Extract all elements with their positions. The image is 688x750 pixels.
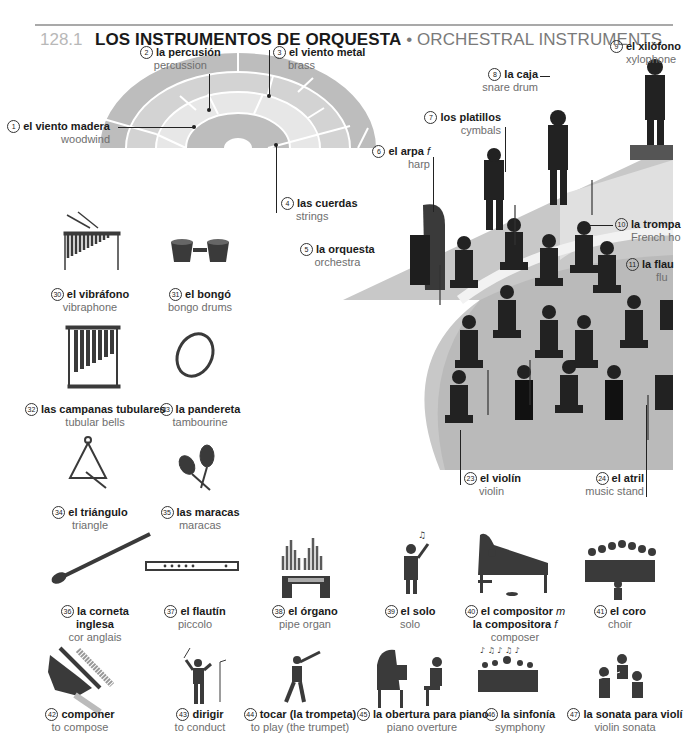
label-maracas: 35las maracas maracas <box>150 506 250 532</box>
leader-line <box>505 127 506 172</box>
label-snare-drum: 8la caja snare drum <box>460 68 538 94</box>
leader-dot <box>267 94 271 98</box>
section-number: 128.1 <box>40 30 83 50</box>
label-composer: 40el compositor m la compositora f compo… <box>460 605 570 644</box>
violin-sonata-icon <box>595 654 643 698</box>
label-play-trumpet: 44tocar (la trompeta) to play (the trump… <box>240 708 360 734</box>
header-rule <box>35 24 673 26</box>
compose-icon <box>48 648 112 712</box>
label-xylophone: 9el xilófono xylophone <box>610 40 681 66</box>
label-percussion: 2la percusión percussion <box>140 46 221 72</box>
conduct-icon <box>184 648 226 704</box>
tambourine-icon <box>170 328 219 382</box>
pipe-organ-icon <box>282 538 330 598</box>
leader-line <box>460 430 461 485</box>
solo-icon: ♫ <box>404 530 428 594</box>
label-triangle: 34el triángulo triangle <box>40 506 140 532</box>
label-tambourine: 33la pandereta tambourine <box>150 403 250 429</box>
trumpet-player-icon <box>286 652 320 702</box>
label-solo: 39el solo solo <box>360 605 460 631</box>
triangle-icon <box>70 437 106 488</box>
label-piano-overture: 45la obertura para piano piano overture <box>357 708 487 734</box>
label-harp: 6el arpa f harp <box>350 145 430 171</box>
label-compose: 42componer to compose <box>25 708 135 734</box>
label-bongo: 31el bongó bongo drums <box>150 288 250 314</box>
label-vibraphone: 30el vibráfono vibraphone <box>40 288 140 314</box>
leader-line <box>433 157 434 212</box>
label-french-horn: 10la trompa French ho <box>615 218 681 244</box>
label-strings: 4las cuerdas strings <box>281 197 358 223</box>
cor-anglais-icon <box>50 534 150 586</box>
label-symphony: 46la sinfonía symphony <box>470 708 570 734</box>
leader-dot <box>274 143 278 147</box>
label-flute: 11la flau flu <box>626 258 674 284</box>
leader-line <box>585 225 613 226</box>
label-orchestra: 5la orquesta orchestra <box>300 243 375 269</box>
tubular-bells-icon <box>66 326 120 388</box>
title-separator: • <box>401 30 417 49</box>
svg-text:♪ ♫ ♪ ♫ ♪: ♪ ♫ ♪ ♫ ♪ <box>480 646 520 655</box>
vibraphone-icon <box>64 212 120 270</box>
label-pipe-organ: 38el órgano pipe organ <box>255 605 355 631</box>
label-woodwind: 1el viento madera woodwind <box>0 120 110 146</box>
label-piccolo: 37el flautín piccolo <box>145 605 245 631</box>
leader-dot <box>192 125 196 129</box>
piccolo-icon <box>146 562 238 570</box>
leader-line <box>276 145 277 213</box>
leader-dot <box>207 108 211 112</box>
label-conduct: 43dirigir to conduct <box>150 708 250 734</box>
label-violin-sonata: 47la sonata para violí violin sonata <box>560 708 688 734</box>
label-choir: 41el coro choir <box>570 605 670 631</box>
label-cor-anglais: 36la corneta inglesa cor anglais <box>45 605 145 644</box>
leader-line <box>269 50 270 96</box>
label-violin: 23el violín violin <box>464 472 521 498</box>
composer-piano-icon <box>478 534 548 596</box>
leader-line <box>118 127 194 128</box>
leader-line <box>540 76 550 77</box>
label-cymbals: 7los platillos cymbals <box>420 111 501 137</box>
label-brass: 3el viento metal brass <box>273 46 365 72</box>
bongo-icon <box>171 239 229 262</box>
choir-icon <box>585 540 656 600</box>
symphony-icon: ♪ ♫ ♪ ♫ ♪ <box>478 646 538 692</box>
leader-line <box>209 74 210 110</box>
svg-text:♫: ♫ <box>418 530 426 540</box>
label-tubular-bells: 32las campanas tubulares tubular bells <box>25 403 165 429</box>
maracas-icon <box>176 445 214 490</box>
piano-overture-icon <box>377 650 442 708</box>
label-music-stand: 24el atril music stand <box>580 472 644 498</box>
leader-line <box>646 405 647 497</box>
